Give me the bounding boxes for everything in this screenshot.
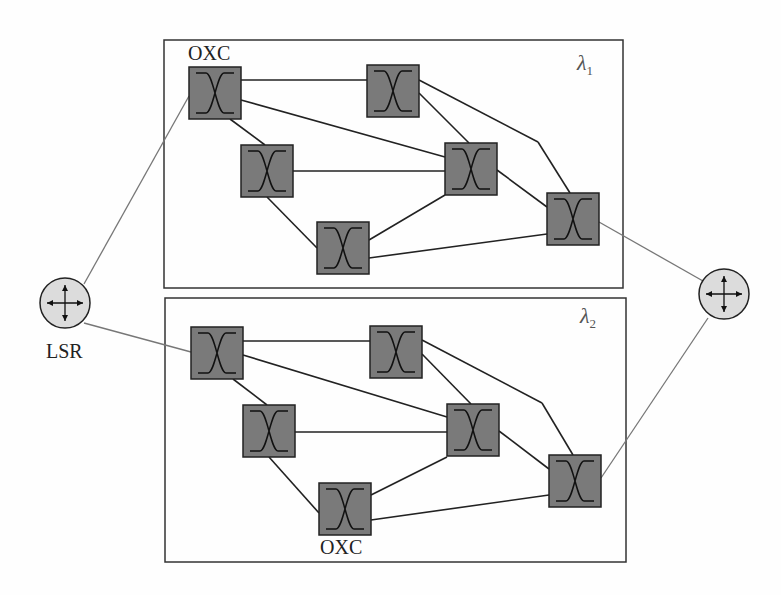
lambda2-label: λ2 bbox=[580, 303, 596, 332]
oxc-node-l2-c[interactable] bbox=[243, 405, 295, 457]
oxc-node-l2-a[interactable] bbox=[191, 327, 243, 379]
oxc-node-l2-b[interactable] bbox=[370, 326, 422, 378]
oxc-node-l1-d[interactable] bbox=[445, 143, 497, 195]
lsr-router-left-icon[interactable] bbox=[40, 278, 90, 328]
oxc-node-l2-f[interactable] bbox=[549, 455, 601, 507]
oxc-node-l1-b[interactable] bbox=[367, 65, 419, 117]
oxc-node-l1-c[interactable] bbox=[241, 145, 293, 197]
oxc-node-l2-e[interactable] bbox=[319, 483, 371, 535]
access-links bbox=[84, 96, 708, 478]
oxc-node-l1-a[interactable] bbox=[189, 67, 241, 119]
oxc-node-l2-d[interactable] bbox=[447, 404, 499, 456]
lambda1-label: λ1 bbox=[577, 50, 593, 79]
oxc-label-bottom: OXC bbox=[320, 536, 362, 559]
oxc-node-l1-f[interactable] bbox=[547, 193, 599, 245]
lsr-label: LSR bbox=[46, 340, 83, 363]
oxc-label-top: OXC bbox=[188, 42, 230, 65]
oxc-node-l1-e[interactable] bbox=[317, 222, 369, 274]
network-diagram bbox=[0, 0, 781, 595]
lsr-router-right-icon[interactable] bbox=[699, 269, 749, 319]
